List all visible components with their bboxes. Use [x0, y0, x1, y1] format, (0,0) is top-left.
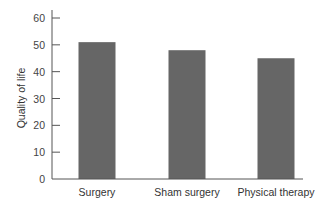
bars — [79, 42, 295, 179]
bar-surgery — [79, 42, 116, 179]
x-category-label: Physical therapy — [237, 186, 315, 198]
bar-sham-surgery — [169, 50, 206, 179]
y-tick-label: 40 — [33, 66, 45, 78]
bar-physical-therapy — [258, 58, 295, 179]
y-tick-label: 10 — [33, 146, 45, 158]
y-tick-label: 20 — [33, 119, 45, 131]
y-tick-label: 30 — [33, 93, 45, 105]
y-tick-label: 50 — [33, 39, 45, 51]
y-axis: 0102030405060 — [33, 12, 60, 185]
x-category-label: Sham surgery — [154, 186, 220, 198]
x-category-label: Surgery — [79, 186, 117, 198]
x-axis-labels: SurgerySham surgeryPhysical therapy — [79, 186, 316, 198]
bar-chart: Quality of life 0102030405060 SurgerySha… — [0, 0, 324, 206]
y-tick-label: 0 — [39, 173, 45, 185]
y-tick-label: 60 — [33, 12, 45, 24]
y-axis-title: Quality of life — [15, 67, 27, 128]
